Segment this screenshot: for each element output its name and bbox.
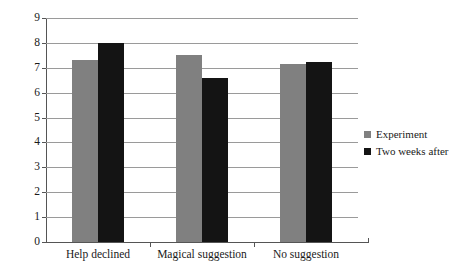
- y-axis-tick-label: 2: [34, 186, 40, 198]
- bar-experiment: [176, 55, 202, 242]
- y-tick-mark: [42, 68, 46, 69]
- bar-experiment: [280, 64, 306, 242]
- y-tick-mark: [42, 118, 46, 119]
- y-tick-mark: [42, 18, 46, 19]
- legend-item: Two weeks after: [364, 143, 449, 160]
- bar-two-weeks-after: [202, 78, 228, 242]
- x-axis-separator: [254, 242, 255, 247]
- legend-swatch-experiment: [364, 131, 371, 138]
- y-axis-tick-label: 5: [34, 112, 40, 124]
- chart-legend: ExperimentTwo weeks after: [364, 126, 449, 160]
- y-tick-mark: [42, 93, 46, 94]
- y-axis-tick-label: 8: [34, 37, 40, 49]
- x-axis-separator: [150, 242, 151, 247]
- y-tick-mark: [42, 192, 46, 193]
- y-axis-tick-label: 1: [34, 211, 40, 223]
- legend-swatch-two-weeks-after: [364, 148, 371, 155]
- y-axis-tick-label: 6: [34, 87, 40, 99]
- y-tick-mark: [42, 142, 46, 143]
- y-axis-tick-label: 9: [34, 12, 40, 24]
- bar-two-weeks-after: [306, 62, 332, 242]
- y-tick-mark: [42, 242, 46, 243]
- x-axis-category-label: No suggestion: [273, 248, 339, 261]
- legend-item: Experiment: [364, 126, 449, 143]
- x-axis-category-label: Magical suggestion: [157, 248, 247, 261]
- plot-area: 9876543210: [46, 18, 358, 242]
- y-axis-tick-label: 3: [34, 162, 40, 174]
- y-tick-mark: [42, 167, 46, 168]
- legend-item-label: Two weeks after: [376, 146, 449, 157]
- gridline: 9: [46, 18, 358, 19]
- y-axis-tick-label: 0: [34, 236, 40, 248]
- legend-item-label: Experiment: [376, 129, 427, 140]
- gridline: 0: [46, 242, 358, 243]
- y-tick-mark: [42, 43, 46, 44]
- y-axis-tick-label: 7: [34, 62, 40, 74]
- bar-two-weeks-after: [98, 43, 124, 242]
- y-axis-tick-label: 4: [34, 137, 40, 149]
- x-axis-end-cap: [368, 238, 369, 243]
- y-tick-mark: [42, 217, 46, 218]
- x-axis-category-label: Help declined: [66, 248, 130, 261]
- bar-chart: 9876543210 ExperimentTwo weeks after Hel…: [0, 0, 464, 268]
- bar-experiment: [72, 60, 98, 242]
- gridline: 8: [46, 43, 358, 44]
